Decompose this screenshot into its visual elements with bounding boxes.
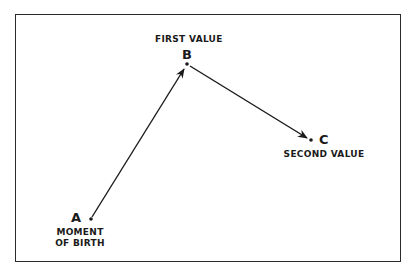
point-b-dot (185, 62, 189, 66)
point-a-label-line2: OF BIRTH (52, 238, 108, 248)
point-b-letter: B (182, 47, 192, 62)
arrow-a-to-b (92, 69, 184, 217)
point-a-label-line1: MOMENT (52, 227, 108, 237)
point-b-label: FIRST VALUE (155, 34, 221, 44)
point-a-letter: A (71, 210, 81, 225)
point-c-label: SECOND VALUE (279, 149, 369, 159)
point-c-dot (309, 138, 313, 142)
point-c-letter: C (319, 132, 329, 147)
point-a-dot (89, 217, 93, 221)
arrow-b-to-c (190, 66, 307, 138)
